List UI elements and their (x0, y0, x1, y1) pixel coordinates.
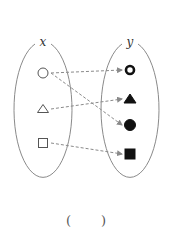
open-circle-node (38, 68, 48, 78)
domain-set-ellipse (14, 44, 72, 177)
filled-circle-node (125, 120, 136, 131)
nodes-layer (38, 66, 137, 159)
open-triangle-node (38, 105, 49, 113)
arrows-layer (51, 70, 122, 154)
mapping-diagram: x y (0, 0, 172, 200)
open-paren: ( (66, 213, 71, 228)
codomain-set-label: y (126, 35, 134, 49)
open-square-node (39, 139, 48, 148)
arrow-open-triangle-to-filled-triangle (51, 99, 122, 109)
answer-blank[interactable]: () (0, 213, 172, 228)
filled-triangle-node (124, 94, 136, 103)
arrow-open-circle-to-bold-ring (51, 70, 122, 73)
arrow-open-square-to-filled-square (51, 143, 122, 154)
arrow-open-circle-to-filled-circle (51, 73, 122, 125)
filled-square-node (125, 149, 135, 159)
bold-ring-node (126, 66, 134, 74)
domain-set-label: x (40, 35, 47, 49)
close-paren: ) (101, 213, 106, 228)
